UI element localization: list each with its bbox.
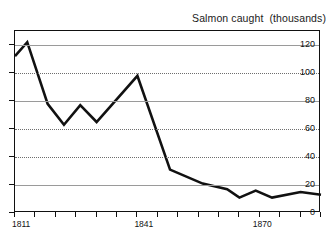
gridline-20 bbox=[15, 185, 319, 186]
x-axis-tick-1886 bbox=[320, 212, 321, 217]
y-axis-label-100: 100 bbox=[300, 68, 315, 77]
y-axis-label-80: 80 bbox=[305, 96, 315, 105]
x-axis-tick-1841 bbox=[136, 212, 137, 217]
x-axis-tick-1871 bbox=[259, 212, 260, 217]
x-axis-tick-1811 bbox=[14, 212, 15, 217]
y-axis-tick-120 bbox=[9, 44, 14, 45]
y-axis-tick-80 bbox=[9, 100, 14, 101]
x-axis-label-1841: 1841 bbox=[134, 219, 153, 229]
x-axis-tick-1836 bbox=[116, 212, 117, 217]
x-axis-tick-1881 bbox=[300, 212, 301, 217]
x-axis-tick-1831 bbox=[96, 212, 97, 217]
y-axis-tick-40 bbox=[9, 156, 14, 157]
chart-title: Salmon caught (thousands) bbox=[0, 12, 326, 24]
y-axis-tick-60 bbox=[9, 128, 14, 129]
plot-area: 120100806040200 bbox=[14, 30, 320, 212]
x-axis-tick-1876 bbox=[279, 212, 280, 217]
chart-figure: Salmon caught (thousands) 12010080604020… bbox=[0, 0, 334, 245]
x-axis-tick-1846 bbox=[157, 212, 158, 217]
y-axis-label-40: 40 bbox=[305, 152, 315, 161]
plot-inner: 120100806040200 bbox=[15, 31, 319, 211]
x-axis-tick-1851 bbox=[177, 212, 178, 217]
y-axis-label-120: 120 bbox=[300, 40, 315, 49]
salmon-caught-line bbox=[15, 42, 321, 197]
x-axis-tick-1861 bbox=[218, 212, 219, 217]
x-axis-tick-1816 bbox=[34, 212, 35, 217]
y-axis-tick-20 bbox=[9, 184, 14, 185]
x-axis-tick-1821 bbox=[55, 212, 56, 217]
x-axis-tick-1826 bbox=[75, 212, 76, 217]
gridline-80 bbox=[15, 101, 319, 102]
x-axis-label-1870: 1870 bbox=[253, 219, 272, 229]
x-axis-tick-1866 bbox=[238, 212, 239, 217]
gridline-60 bbox=[15, 129, 319, 130]
gridline-100 bbox=[15, 73, 319, 74]
x-axis-label-1811: 1811 bbox=[12, 219, 30, 229]
y-axis-label-0: 0 bbox=[310, 208, 315, 217]
y-axis-tick-0 bbox=[9, 212, 14, 213]
x-axis-tick-1856 bbox=[198, 212, 199, 217]
y-axis-tick-100 bbox=[9, 72, 14, 73]
gridline-40 bbox=[15, 157, 319, 158]
y-axis-label-20: 20 bbox=[305, 180, 315, 189]
gridline-120 bbox=[15, 45, 319, 46]
y-axis-label-60: 60 bbox=[305, 124, 315, 133]
